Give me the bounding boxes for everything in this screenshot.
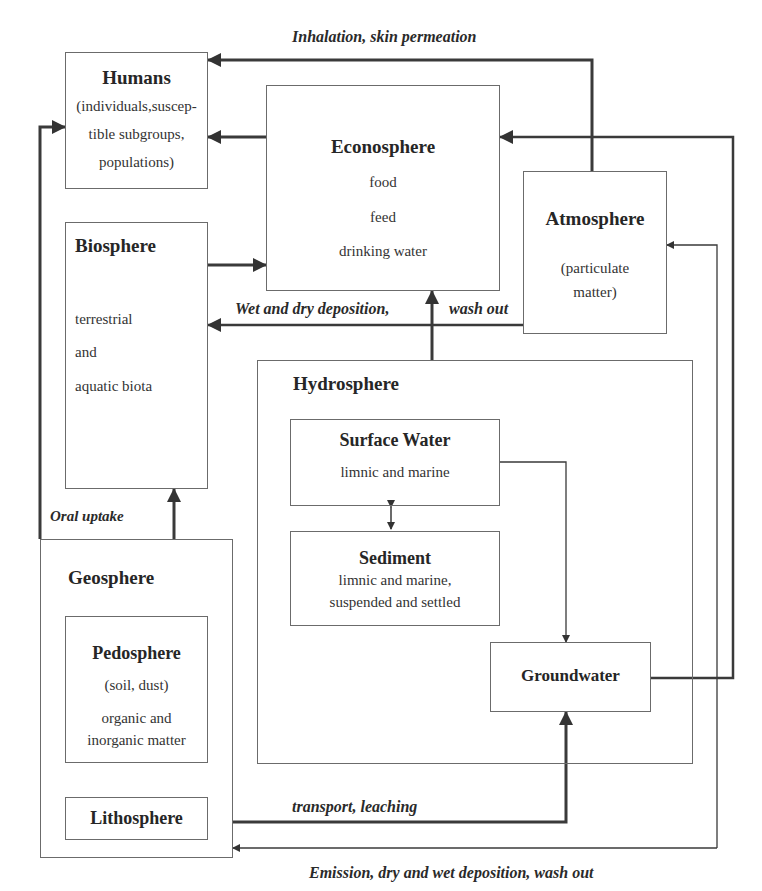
humans-line: tible subgroups, — [66, 126, 207, 143]
econosphere-line: drinking water — [267, 243, 499, 260]
humans-box: Humans (individuals,suscep- tible subgro… — [65, 52, 208, 189]
humans-line: populations) — [66, 154, 207, 171]
econosphere-box: Econosphere food feed drinking water — [266, 85, 500, 291]
sediment-line: suspended and settled — [291, 594, 499, 611]
label-deposition: Wet and dry deposition, — [235, 300, 389, 318]
biosphere-line: and — [75, 344, 97, 361]
label-inhalation: Inhalation, skin permeation — [292, 28, 477, 46]
econosphere-line: feed — [267, 209, 499, 226]
hydrosphere-title: Hydrosphere — [293, 373, 399, 395]
atmosphere-line: matter) — [524, 284, 666, 301]
biosphere-line: terrestrial — [75, 311, 132, 328]
geosphere-title: Geosphere — [68, 567, 154, 589]
biosphere-title: Biosphere — [75, 235, 156, 257]
humans-title: Humans — [66, 67, 207, 89]
econosphere-title: Econosphere — [267, 136, 499, 158]
arrow-oral-uptake — [40, 127, 65, 539]
pedosphere-line: inorganic matter — [66, 732, 207, 749]
label-emission: Emission, dry and wet deposition, wash o… — [309, 864, 594, 882]
biosphere-line: aquatic biota — [75, 378, 152, 395]
sediment-line: limnic and marine, — [291, 572, 499, 589]
pedosphere-line: organic and — [66, 710, 207, 727]
lithosphere-title: Lithosphere — [66, 808, 207, 829]
surface-water-title: Surface Water — [291, 430, 499, 451]
groundwater-box: Groundwater — [490, 642, 651, 712]
atmosphere-line: (particulate — [524, 260, 666, 277]
label-oral-uptake: Oral uptake — [50, 508, 124, 525]
surface-water-box: Surface Water limnic and marine — [290, 419, 500, 506]
label-washout: wash out — [449, 300, 508, 318]
lithosphere-box: Lithosphere — [65, 797, 208, 840]
atmosphere-box: Atmosphere (particulate matter) — [523, 171, 667, 334]
atmosphere-title: Atmosphere — [524, 208, 666, 230]
sediment-box: Sediment limnic and marine, suspended an… — [290, 531, 500, 626]
pedosphere-title: Pedosphere — [66, 643, 207, 664]
groundwater-title: Groundwater — [491, 666, 650, 686]
humans-line: (individuals,suscep- — [66, 98, 207, 115]
sediment-title: Sediment — [291, 548, 499, 569]
biosphere-box: Biosphere terrestrial and aquatic biota — [65, 222, 208, 489]
surface-water-line: limnic and marine — [291, 464, 499, 481]
pedosphere-line: (soil, dust) — [66, 677, 207, 694]
label-transport: transport, leaching — [292, 798, 417, 816]
pedosphere-box: Pedosphere (soil, dust) organic and inor… — [65, 616, 208, 763]
econosphere-line: food — [267, 174, 499, 191]
